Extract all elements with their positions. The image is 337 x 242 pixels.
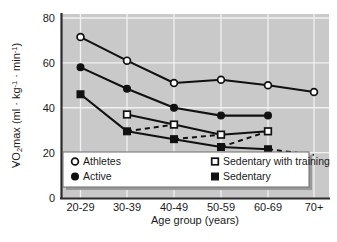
x-axis-tick-label: 40-49 bbox=[160, 201, 188, 213]
legend-marker-filled-square-icon bbox=[212, 173, 219, 180]
data-point-open-circle-icon bbox=[171, 80, 178, 87]
data-point-open-circle-icon bbox=[218, 76, 225, 83]
y-axis-title-exp1: -1 bbox=[10, 81, 19, 88]
legend-marker-open-circle-icon bbox=[72, 158, 79, 165]
y-axis-title-min: · min bbox=[10, 53, 22, 81]
y-axis-title-close: ) bbox=[10, 43, 22, 47]
x-axis-tick-label: 50-59 bbox=[207, 201, 235, 213]
y-axis-title-exp2: -1 bbox=[10, 47, 19, 54]
x-axis-title: Age group (years) bbox=[151, 214, 239, 226]
legend-label: Sedentary bbox=[223, 170, 272, 182]
x-axis-tick-label: 30-39 bbox=[113, 201, 141, 213]
legend-label: Active bbox=[83, 170, 112, 182]
y-axis-tick-label: 0 bbox=[49, 192, 55, 204]
data-point-filled-circle-icon bbox=[171, 104, 178, 111]
x-axis-tick-label: 70+ bbox=[305, 201, 324, 213]
y-axis-title-max: max (ml · kg bbox=[10, 87, 22, 148]
data-point-open-circle-icon bbox=[77, 34, 84, 41]
data-point-open-circle-icon bbox=[311, 89, 318, 96]
svg-text:VO2max (ml · kg-1 · min-1): VO2max (ml · kg-1 · min-1) bbox=[10, 43, 25, 168]
y-axis-tick-label: 20 bbox=[43, 147, 55, 159]
x-axis-tick-label: 20-29 bbox=[66, 201, 94, 213]
y-axis-tick-label: 80 bbox=[43, 12, 55, 24]
y-axis-tick-label: 60 bbox=[43, 57, 55, 69]
data-point-filled-square-icon bbox=[171, 136, 178, 143]
chart-figure: 020406080 20-2930-3940-4950-5960-6970+ V… bbox=[0, 0, 337, 242]
data-point-open-square-icon bbox=[218, 131, 225, 138]
v-dot-overdot-icon bbox=[15, 164, 17, 166]
vo2max-line-chart: 020406080 20-2930-3940-4950-5960-6970+ V… bbox=[0, 0, 337, 242]
data-point-filled-square-icon bbox=[218, 144, 225, 151]
y-axis-tick-label: 40 bbox=[43, 102, 55, 114]
data-point-open-circle-icon bbox=[124, 57, 131, 64]
y-axis-tick-labels: 020406080 bbox=[43, 12, 55, 204]
x-axis-tick-labels: 20-2930-3940-4950-5960-6970+ bbox=[66, 201, 323, 213]
data-point-filled-circle-icon bbox=[265, 112, 272, 119]
data-point-open-square-icon bbox=[265, 128, 272, 135]
x-axis-tick-label: 60-69 bbox=[254, 201, 282, 213]
data-point-filled-circle-icon bbox=[218, 112, 225, 119]
data-point-filled-square-icon bbox=[77, 91, 84, 98]
data-point-open-square-icon bbox=[124, 111, 131, 118]
data-point-filled-square-icon bbox=[124, 128, 131, 135]
legend: AthletesSedentary with trainingActiveSed… bbox=[63, 152, 330, 190]
data-point-filled-circle-icon bbox=[124, 85, 131, 92]
data-point-filled-circle-icon bbox=[77, 64, 84, 71]
legend-marker-filled-circle-icon bbox=[72, 173, 79, 180]
legend-label: Athletes bbox=[83, 155, 121, 167]
data-point-open-circle-icon bbox=[265, 82, 272, 89]
legend-label: Sedentary with training bbox=[223, 155, 330, 167]
y-axis-title: VO2max (ml · kg-1 · min-1) bbox=[10, 43, 25, 168]
legend-marker-open-square-icon bbox=[212, 158, 219, 165]
data-point-open-square-icon bbox=[171, 121, 178, 128]
